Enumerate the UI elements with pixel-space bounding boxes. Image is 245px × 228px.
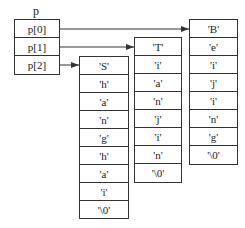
pointer-arrows [0,0,245,228]
